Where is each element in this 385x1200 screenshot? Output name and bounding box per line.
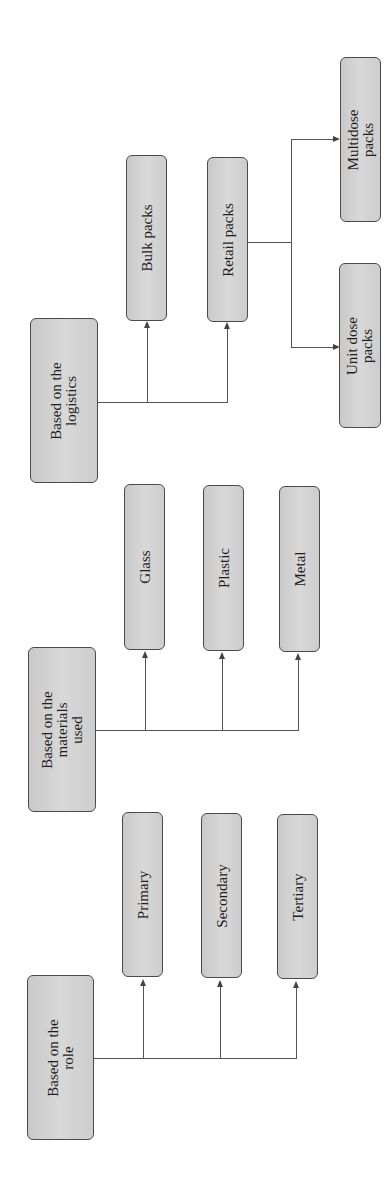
arrow-icon (295, 653, 301, 660)
node-label: Tertiary (290, 873, 305, 920)
node-based-on-materials: Based on the materials used (28, 647, 96, 812)
node-retail-packs: Retail packs (207, 157, 248, 322)
connector-line (145, 657, 146, 730)
arrow-icon (144, 321, 150, 328)
node-label: Metal (292, 552, 307, 587)
arrow-icon (142, 651, 148, 658)
connector-line (143, 985, 144, 1058)
node-label: Retail packs (220, 203, 235, 277)
node-label: Based on the role (46, 1019, 76, 1096)
arrow-icon (293, 981, 299, 988)
node-label: Glass (137, 550, 152, 583)
node-primary: Primary (122, 812, 163, 977)
node-secondary: Secondary (201, 813, 242, 978)
node-glass: Glass (124, 484, 165, 650)
connector-line (296, 987, 297, 1058)
node-label: Based on the materials used (40, 691, 85, 768)
node-label: Primary (135, 870, 150, 918)
node-label: Multidose packs (346, 109, 376, 170)
connector-line (291, 347, 333, 348)
node-label: Unit dose packs (345, 317, 375, 375)
arrow-icon (140, 979, 146, 986)
connector-line (248, 242, 291, 243)
node-unit-dose-packs: Unit dose packs (339, 263, 381, 428)
connector-line (298, 659, 299, 730)
node-tertiary: Tertiary (277, 814, 318, 979)
connector-line (227, 328, 228, 402)
node-label: Secondary (214, 864, 229, 927)
arrow-icon (217, 980, 223, 987)
node-label: Based on the logistics (49, 362, 79, 439)
connector-line (98, 402, 228, 403)
connector-line (222, 658, 223, 730)
node-plastic: Plastic (203, 485, 244, 651)
connector-line (94, 1058, 297, 1059)
arrow-icon (224, 322, 230, 329)
connector-line (220, 986, 221, 1058)
connector-line (291, 139, 333, 140)
node-label: Plastic (216, 548, 231, 588)
arrow-icon (333, 136, 340, 142)
connector-line (147, 327, 148, 402)
connector-line (96, 730, 299, 731)
node-label: Bulk packs (139, 204, 154, 271)
node-based-on-logistics: Based on the logistics (30, 318, 98, 483)
node-based-on-role: Based on the role (27, 975, 94, 1140)
node-multidose-packs: Multidose packs (340, 57, 381, 222)
arrow-icon (219, 652, 225, 659)
connector-line (291, 139, 292, 347)
node-metal: Metal (279, 486, 320, 652)
node-bulk-packs: Bulk packs (126, 155, 167, 321)
